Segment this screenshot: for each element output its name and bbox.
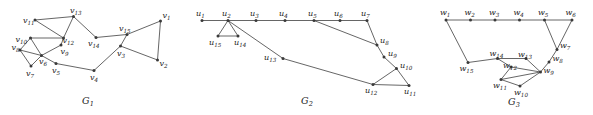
graph-edge-G2-u8-u9 (377, 45, 384, 57)
vertex-label-G1-v5: v5 (52, 66, 61, 76)
graph-edge-G1-v4-v5 (56, 64, 94, 71)
graph-vertex-G3-w9 (539, 71, 542, 74)
vertex-label-G3-w13: w13 (518, 50, 532, 60)
graph-canvas: v1v2v3v4v5v6v7v8v9v10v11v12v13v14v15u1u2… (0, 0, 593, 115)
graph-edge-G1-v2-v3 (121, 46, 158, 60)
graph-vertex-G3-w5 (543, 19, 546, 22)
vertex-label-G2-u1: u1 (196, 9, 205, 19)
graph-vertex-G2-u13 (282, 57, 285, 60)
graph-vertex-G2-u2 (227, 19, 230, 22)
vertex-label-G3-w5: w5 (538, 8, 549, 18)
vertex-label-G2-u9: u9 (388, 49, 397, 59)
graph-vertex-G3-w15 (467, 61, 470, 64)
graph-vertex-G3-w2 (469, 19, 472, 22)
graph-edge-G2-u5-u8 (314, 21, 377, 46)
graph-edge-G1-v14-v15 (96, 35, 127, 38)
vertex-label-G1-v12: v12 (63, 36, 75, 46)
graph-edge-G2-u12-u10 (373, 69, 397, 85)
graph-vertex-G2-u12 (372, 83, 375, 86)
vertex-label-G3-w7: w7 (560, 41, 571, 51)
graph-edge-G1-v11-v12 (35, 20, 64, 38)
vertex-label-G3-w1: w1 (440, 8, 450, 18)
graph-caption-G2: G2 (301, 95, 313, 108)
graph-edge-G3-w5-w7 (545, 20, 558, 50)
vertex-label-G3-w4: w4 (514, 8, 525, 18)
graph-figure: v1v2v3v4v5v6v7v8v9v10v11v12v13v14v15u1u2… (0, 0, 593, 115)
graph-vertex-G2-u7 (366, 19, 369, 22)
vertex-label-G1-v2: v2 (160, 59, 169, 69)
graph-captions-layer: G1G2G3 (82, 95, 520, 109)
graph-edge-G3-w14-w15 (468, 59, 498, 63)
graph-vertex-G2-u4 (284, 19, 287, 22)
graph-vertex-G2-u6 (339, 19, 342, 22)
vertex-label-G3-w11: w11 (493, 81, 507, 91)
vertex-label-G2-u4: u4 (279, 9, 288, 19)
vertex-label-G2-u6: u6 (334, 9, 343, 19)
graph-vertex-G2-u8 (376, 44, 379, 47)
vertex-label-G1-v1: v1 (163, 11, 171, 21)
vertex-label-G1-v3: v3 (117, 49, 126, 59)
graph-vertex-G1-v3 (119, 45, 122, 48)
graph-edge-G1-v13-v14 (74, 17, 97, 38)
graph-vertex-G2-u10 (395, 67, 398, 70)
vertex-label-G1-v8: v8 (12, 43, 21, 53)
vertex-label-G1-v14: v14 (88, 39, 100, 49)
vertex-label-G3-w2: w2 (465, 8, 476, 18)
graph-caption-G1: G1 (82, 95, 94, 108)
vertex-label-G3-w15: w15 (460, 64, 474, 74)
graph-vertex-G3-w7 (556, 48, 559, 51)
graph-edge-G1-v6-v9 (42, 45, 62, 56)
vertex-label-G2-u13: u13 (264, 53, 277, 63)
graph-vertex-G2-u15 (217, 35, 220, 38)
graph-edge-G2-u12-u13 (283, 59, 373, 85)
graph-vertex-G2-u1 (201, 19, 204, 22)
vertex-label-G2-u12: u12 (365, 86, 378, 96)
vertex-label-G1-v13: v13 (70, 6, 82, 16)
vertex-label-G1-v9: v9 (61, 47, 70, 57)
vertex-label-G1-v15: v15 (119, 24, 131, 34)
vertex-label-G2-u8: u8 (380, 36, 389, 46)
vertex-label-G1-v11: v11 (23, 16, 35, 26)
graph-edge-G2-u2-u15 (218, 21, 228, 37)
vertex-label-G3-w8: w8 (553, 54, 564, 64)
vertex-label-G2-u10: u10 (400, 61, 413, 71)
graph-edge-G2-u10-u11 (397, 69, 410, 86)
vertex-label-G2-u3: u3 (250, 9, 259, 19)
graph-edge-G3-w15-w1 (446, 20, 468, 63)
graph-vertex-G3-w1 (445, 19, 448, 22)
vertex-label-G1-v10: v10 (16, 35, 28, 45)
vertex-label-G1-v7: v7 (26, 69, 35, 79)
graph-vertex-G1-v10 (29, 37, 32, 40)
graph-vertex-G3-w8 (548, 61, 551, 64)
vertex-label-G3-w3: w3 (489, 8, 500, 18)
graph-edge-G2-u11-u12 (373, 85, 409, 86)
vertex-label-G2-u2: u2 (222, 9, 231, 19)
graph-caption-G3: G3 (508, 96, 520, 109)
vertex-label-G3-w14: w14 (490, 49, 504, 59)
vertex-label-G2-u7: u7 (361, 9, 370, 19)
graph-vertex-G2-u9 (383, 56, 386, 59)
vertex-label-G3-w6: w6 (566, 8, 577, 18)
graph-edge-G1-v3-v15 (121, 35, 128, 47)
graph-vertex-G2-u3 (255, 19, 258, 22)
vertex-label-G2-u15: u15 (209, 38, 222, 48)
graph-edge-G2-u9-u10 (384, 57, 397, 69)
graph-edge-G1-v1-v2 (158, 21, 161, 60)
vertex-label-G3-w9: w9 (544, 66, 555, 76)
vertex-label-G2-u5: u5 (308, 9, 317, 19)
graph-vertex-G1-v14 (95, 36, 98, 39)
graph-vertex-G3-w11 (500, 78, 503, 81)
vertex-label-G2-u11: u11 (404, 87, 416, 97)
vertex-label-G3-w10: w10 (514, 88, 528, 98)
graph-vertex-G1-v7 (30, 65, 33, 68)
graph-vertex-G3-w4 (518, 19, 521, 22)
graph-edge-G2-u2-u14 (228, 21, 238, 37)
graph-edge-G1-v15-v1 (127, 21, 161, 35)
graph-vertex-G1-v1 (159, 20, 162, 23)
vertex-label-G1-v4: v4 (90, 73, 99, 83)
graph-edge-G1-v11-v13 (35, 17, 74, 21)
vertex-label-G2-u14: u14 (234, 38, 247, 48)
vertex-label-G3-w12: w12 (503, 61, 517, 71)
graph-vertex-G2-u5 (313, 19, 316, 22)
graph-vertex-G3-w6 (571, 19, 574, 22)
